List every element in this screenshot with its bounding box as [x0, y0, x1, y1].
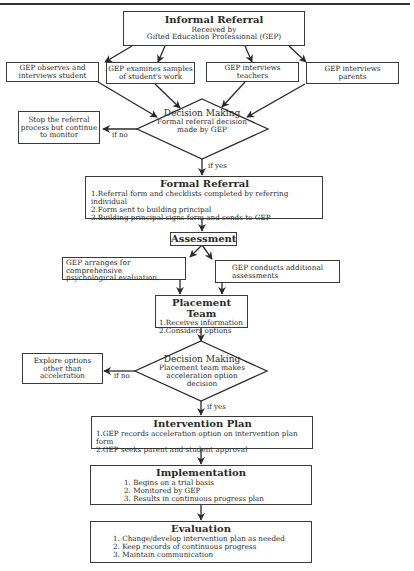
- gep-teachers-line2: teachers: [237, 72, 268, 80]
- additional-assess-line2: assessments: [232, 272, 339, 280]
- gep-examines-box: GEP examines samples of student's work: [106, 62, 195, 84]
- gep-teachers-box: GEP interviews teachers: [206, 62, 299, 82]
- formal-referral-title: Formal Referral: [91, 179, 318, 190]
- placement-team-box: Placement Team 1.Receives information 2.…: [155, 295, 248, 328]
- formal-referral-item: 1.Referral form and checklists completed…: [91, 190, 318, 206]
- gep-parents-line2: parents: [339, 73, 367, 81]
- intervention-plan-box: Intervention Plan 1.GEP records accelera…: [91, 416, 313, 449]
- explore-options-box: Explore options other than acceleration: [22, 353, 103, 384]
- formal-referral-item: 3.Building principal signs form and send…: [91, 214, 318, 222]
- informal-referral-box: Informal Referral Received by Gifted Edu…: [123, 11, 305, 46]
- evaluation-title: Evaluation: [94, 524, 308, 535]
- gep-parents-box: GEP interviews parents: [306, 62, 399, 84]
- placement-team-title: Placement Team: [159, 298, 244, 319]
- decision1-line2: made by GEP: [148, 126, 256, 134]
- intervention-plan-item: 2.GEP seeks parent and student approval: [96, 446, 309, 454]
- informal-referral-title: Informal Referral: [124, 15, 304, 26]
- implementation-box: Implementation 1. Begins on a trial basi…: [90, 465, 312, 505]
- stop-referral-box: Stop the referral process but continue t…: [18, 111, 100, 144]
- decision1-text: Decision Making Formal referral decision…: [148, 109, 256, 134]
- intervention-plan-title: Intervention Plan: [96, 419, 309, 430]
- stop-line3: to monitor: [40, 131, 78, 139]
- evaluation-item: 3. Maintain communication: [113, 551, 308, 559]
- decision2-no-label: if no: [114, 372, 130, 380]
- assessment-box: Assessment: [170, 232, 237, 246]
- placement-team-item: 2.Considers options: [159, 327, 244, 335]
- formal-referral-box: Formal Referral 1.Referral form and chec…: [85, 176, 323, 219]
- psych-eval-line1: GEP arranges for comprehensive: [66, 259, 182, 274]
- informal-referral-line2: Gifted Education Professional (GEP): [124, 33, 304, 41]
- gep-examines-line2: of student's work: [119, 73, 182, 81]
- intervention-plan-item: 1.GEP records acceleration option on int…: [96, 430, 309, 446]
- evaluation-box: Evaluation 1. Change/develop interventio…: [90, 521, 312, 563]
- decision2-yes-label: if yes: [207, 403, 226, 411]
- psych-evaluation-box: GEP arranges for comprehensive psycholog…: [62, 257, 186, 280]
- additional-assessments-box: GEP conducts additional assessments: [215, 260, 340, 283]
- gep-observes-line2: interviews student: [19, 72, 87, 80]
- gep-observes-box: GEP observes and interviews student: [6, 62, 99, 82]
- explore-line3: acceleration: [40, 372, 85, 380]
- assessment-title: Assessment: [171, 233, 236, 245]
- decision1-yes-label: if yes: [208, 162, 227, 170]
- implementation-title: Implementation: [94, 468, 308, 479]
- psych-eval-line2: psychological evaluation: [66, 274, 182, 282]
- decision1-no-label: if no: [112, 131, 128, 139]
- decision2-line3: decision: [150, 380, 254, 388]
- decision2-text: Decision Making Placement team makes acc…: [150, 355, 254, 387]
- implementation-item: 3. Results in continuous progress plan: [124, 495, 308, 503]
